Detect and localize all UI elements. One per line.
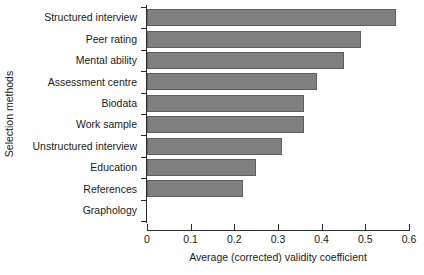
x-axis-tick	[365, 224, 366, 231]
x-axis-ticks	[147, 224, 409, 231]
x-axis-tick-label: 0.5	[358, 233, 373, 245]
category-label: Graphology	[18, 200, 142, 221]
x-axis-tick	[409, 224, 410, 231]
x-axis-tick-label: 0.4	[314, 233, 329, 245]
x-axis-tick-label: 0.3	[271, 233, 286, 245]
bar-row	[147, 28, 409, 49]
y-axis-title: Selection methods	[0, 0, 18, 228]
category-label: Unstructured interview	[18, 135, 142, 156]
category-label: References	[18, 178, 142, 199]
category-label: Peer rating	[18, 28, 142, 49]
bar-chart: Selection methods Structured interviewPe…	[0, 0, 424, 275]
y-axis-title-text: Selection methods	[3, 71, 15, 157]
bar-row	[147, 114, 409, 135]
x-axis-tick	[278, 224, 279, 231]
bar	[147, 138, 282, 155]
bar	[147, 73, 317, 90]
category-label: Structured interview	[18, 7, 142, 28]
bar-row	[147, 71, 409, 92]
bar	[147, 9, 396, 26]
x-axis-tick-label: 0	[144, 233, 150, 245]
x-axis-tick	[322, 224, 323, 231]
category-label: Assessment centre	[18, 71, 142, 92]
bar	[147, 116, 304, 133]
bar-series	[147, 7, 409, 221]
x-axis-title: Average (corrected) validity coefficient	[147, 251, 409, 263]
category-label: Biodata	[18, 93, 142, 114]
x-axis-tick-labels: 00.10.20.30.40.50.6	[147, 233, 409, 247]
x-axis-tick-label: 0.2	[227, 233, 242, 245]
bar	[147, 180, 243, 197]
category-label: Work sample	[18, 114, 142, 135]
bar-row	[147, 135, 409, 156]
bar-row	[147, 93, 409, 114]
bar	[147, 95, 304, 112]
x-axis-tick	[234, 224, 235, 231]
category-axis-labels: Structured interviewPeer ratingMental ab…	[18, 7, 142, 221]
x-axis-tick-label: 0.1	[183, 233, 198, 245]
bar-row	[147, 200, 409, 221]
x-axis-tick	[147, 224, 148, 231]
category-label: Mental ability	[18, 50, 142, 71]
x-axis-tick-label: 0.6	[402, 233, 417, 245]
x-axis-tick	[191, 224, 192, 231]
category-label: Education	[18, 157, 142, 178]
bar-row	[147, 157, 409, 178]
bar-row	[147, 178, 409, 199]
bar-row	[147, 50, 409, 71]
plot-area	[147, 7, 409, 221]
bar	[147, 31, 361, 48]
y-axis-tick	[141, 221, 147, 222]
bar	[147, 159, 256, 176]
bar	[147, 52, 344, 69]
bar-row	[147, 7, 409, 28]
